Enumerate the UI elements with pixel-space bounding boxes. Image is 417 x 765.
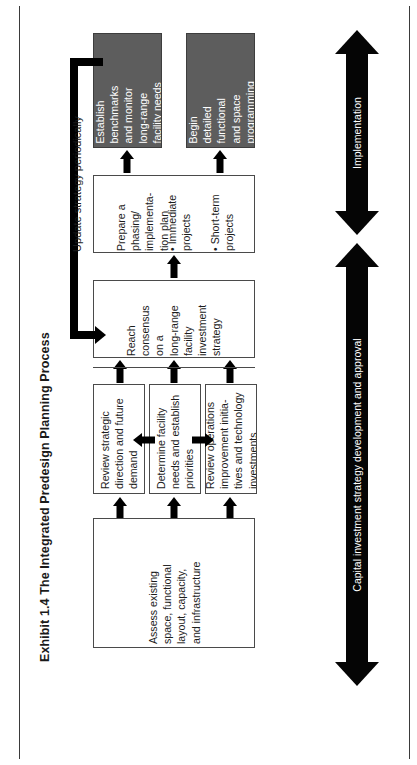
page-border-right — [409, 6, 410, 759]
node-establish-benchmarks-label: Establish benchmarks and monitor long-ra… — [93, 38, 162, 143]
arrow-review-operations-to-consensus — [222, 360, 238, 383]
phase-arrow-capital-investment-label: Capital investment strategy development … — [351, 255, 363, 675]
node-prepare-phasing-plan-subitems: • Immediate projects • Short-term projec… — [164, 177, 235, 251]
phase-arrow-capital-investment: Capital investment strategy development … — [335, 243, 379, 686]
node-begin-detailed-programming: Begin detailed functional and space prog… — [186, 33, 255, 148]
arrow-to-establish-benchmarks — [119, 150, 135, 173]
arrow-to-prepare-phasing-plan — [166, 255, 182, 278]
arrow-to-begin-detailed-programming — [212, 150, 228, 173]
arrow-operations-to-facility-needs — [192, 432, 214, 448]
exhibit-title: Exhibit 1.4 The Integrated Predesign Pla… — [38, 332, 52, 662]
arrow-strategic-to-facility-needs — [133, 432, 155, 448]
node-reach-consensus-label: Reach consensus on a long-range facility… — [124, 282, 223, 356]
arrow-assess-to-review-strategic — [112, 497, 128, 520]
page-border-left — [19, 6, 20, 759]
exhibit-page: Exhibit 1.4 The Integrated Predesign Pla… — [0, 0, 417, 765]
arrow-assess-to-review-operations — [222, 497, 238, 520]
node-assess-existing-label: Assess existing space, functional layout… — [146, 522, 203, 644]
node-begin-detailed-programming-label: Begin detailed functional and space prog… — [186, 38, 255, 143]
arrow-review-strategic-to-consensus — [112, 360, 128, 383]
arrow-assess-to-determine-needs — [166, 497, 182, 520]
node-assess-existing: Assess existing space, functional layout… — [93, 518, 255, 648]
feedback-arrowhead — [95, 326, 106, 344]
arrow-determine-needs-to-consensus — [166, 360, 182, 383]
node-reach-consensus: Reach consensus on a long-range facility… — [93, 280, 255, 358]
feedback-segment-bottom — [70, 331, 97, 339]
node-prepare-phasing-plan-label: Prepare a phasing/ implementa- tion plan — [114, 177, 171, 251]
phase-arrow-implementation-label: Implementation — [351, 43, 363, 223]
node-prepare-phasing-plan: Prepare a phasing/ implementa- tion plan… — [93, 175, 255, 253]
connector-rail-analysis — [93, 367, 255, 368]
feedback-loop-label: Update strategy periodically — [71, 104, 83, 264]
phase-arrow-implementation: Implementation — [335, 30, 379, 235]
node-determine-facility-needs-label: Determine facility needs and establish p… — [154, 389, 197, 489]
node-establish-benchmarks: Establish benchmarks and monitor long-ra… — [93, 33, 162, 148]
